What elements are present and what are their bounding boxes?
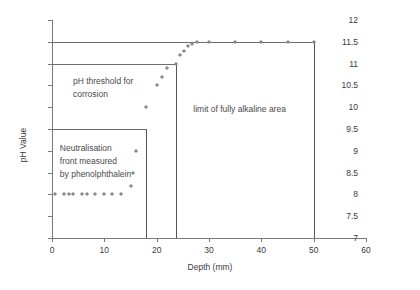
y-tick [48,20,52,21]
x-tick-label: 0 [50,245,55,255]
data-point [259,40,263,44]
x-tick [314,238,315,242]
data-point [80,192,84,196]
x-tick-label: 30 [204,245,213,255]
y-tick [48,216,52,217]
y-tick-label: 8.5 [346,168,358,178]
neutralisation-annotation: Neutralisation front measured by phenolp… [60,142,131,181]
data-point [110,192,114,196]
x-axis-title: Depth (mm) [0,262,420,272]
data-point [144,105,148,109]
data-point [134,149,138,153]
data-point [174,61,178,65]
x-tick [104,238,105,242]
data-point [207,40,211,44]
data-point [312,40,316,44]
data-point [155,83,159,87]
data-point [233,40,237,44]
data-point [62,192,66,196]
y-tick-label: 9.5 [346,124,358,134]
ph-depth-chart: pH Value Depth (mm) 77.588.599.51010.511… [0,0,420,290]
x-tick-label: 40 [257,245,266,255]
ph-threshold-line [52,64,176,65]
y-tick [48,107,52,108]
x-tick-label: 20 [152,245,161,255]
data-point [178,53,182,57]
x-tick [209,238,210,242]
alkaline-limit-vline [176,64,177,238]
data-point [195,40,199,44]
x-tick-label: 50 [309,245,318,255]
y-tick-label: 9 [353,146,358,156]
y-tick [48,173,52,174]
plot-area: 77.588.599.51010.51111.512 0102030405060… [52,20,366,238]
neutralisation-front-line [52,129,146,130]
data-point [285,40,289,44]
data-point [71,192,75,196]
alkaline-plateau-line [52,42,314,43]
y-tick-label: 7.5 [346,211,358,221]
alkaline-limit-annotation: limit of fully alkaline area [193,103,286,116]
y-tick-label: 10 [349,102,358,112]
data-point [165,66,169,70]
y-tick [48,194,52,195]
y-axis-title: pH Value [18,128,28,162]
x-tick [52,238,53,242]
neutralisation-front-vline [146,129,147,238]
data-point [102,192,106,196]
x-tick-label: 60 [361,245,370,255]
data-point [119,192,123,196]
ph-threshold-annotation: pH threshold for corrosion [73,75,133,101]
y-tick-label: 8 [353,189,358,199]
data-point [93,192,97,196]
x-tick-label: 10 [100,245,109,255]
y-tick-label: 10.5 [341,80,358,90]
data-point [53,192,57,196]
y-tick-label: 7 [353,233,358,243]
data-point [84,192,88,196]
y-tick [48,151,52,152]
x-tick [261,238,262,242]
data-point [128,184,132,188]
alkaline-plateau-vline [314,42,315,238]
x-tick [157,238,158,242]
data-point [182,48,186,52]
y-tick-label: 12 [349,15,358,25]
y-tick-label: 11 [349,59,358,69]
data-point [160,75,164,79]
x-tick [366,238,367,242]
y-tick [48,85,52,86]
y-tick-label: 11.5 [342,37,358,47]
